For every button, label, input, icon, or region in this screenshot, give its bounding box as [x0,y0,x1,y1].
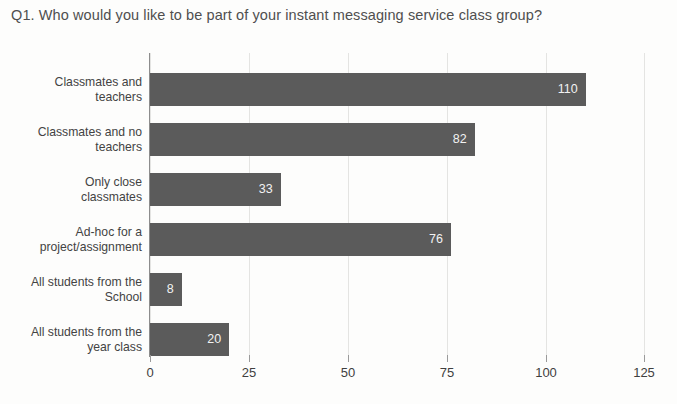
bar-value-label: 76 [429,223,443,256]
bar-value-label: 33 [259,173,273,206]
bar-value-label: 110 [558,73,578,106]
x-tick-mark [546,355,547,362]
x-tick-mark [348,355,349,362]
x-tick-mark [644,355,645,362]
bar[interactable]: 8 [150,273,182,306]
x-tick-mark [249,355,250,362]
y-axis-category-labels: Classmates and teachers Classmates and n… [0,53,142,355]
gridline-125 [644,53,645,355]
bar-value-label: 82 [453,123,467,156]
x-tick-label: 0 [146,365,153,380]
bar[interactable]: 76 [150,223,451,256]
category-label: Only close classmates [5,175,142,204]
category-label: Ad-hoc for a project/assignment [5,225,142,254]
bar[interactable]: 20 [150,323,229,356]
category-label: All students from the year class [5,325,142,354]
bar-chart: Q1. Who would you like to be part of you… [0,0,677,404]
bar-value-label: 8 [167,273,174,306]
category-label: All students from the School [5,275,142,304]
x-tick-mark [150,355,151,362]
plot-area: 110 82 33 76 8 20 [150,53,645,355]
x-tick-label: 100 [535,365,557,380]
chart-title: Q1. Who would you like to be part of you… [11,6,651,25]
x-tick-label: 25 [242,365,256,380]
bar[interactable]: 82 [150,123,475,156]
x-tick-mark [447,355,448,362]
bar-value-label: 20 [207,323,221,356]
category-label: Classmates and teachers [5,75,142,104]
category-label: Classmates and no teachers [5,125,142,154]
x-tick-label: 75 [440,365,454,380]
bar[interactable]: 110 [150,73,586,106]
x-tick-label: 125 [633,365,655,380]
y-axis-line [149,53,150,357]
x-axis: 0 25 50 75 100 125 [150,355,645,395]
bar[interactable]: 33 [150,173,281,206]
x-tick-label: 50 [341,365,355,380]
